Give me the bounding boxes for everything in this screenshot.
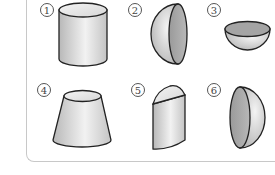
hemisphere-right-icon — [151, 4, 187, 64]
hemisphere-left-icon — [230, 87, 265, 148]
solids-diagram — [0, 0, 275, 175]
frustum-icon — [53, 91, 111, 148]
cylinder-icon — [59, 3, 107, 66]
bowl-hemisphere-icon — [225, 22, 270, 51]
half-cylinder-icon — [153, 86, 185, 149]
